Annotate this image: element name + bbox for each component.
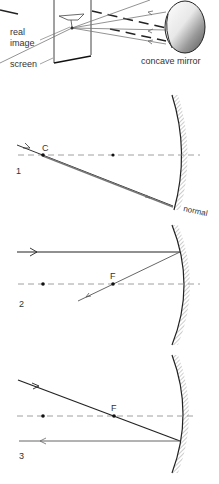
- label-c: C: [42, 143, 49, 153]
- point-c: [41, 414, 45, 418]
- label-image: image: [10, 38, 35, 48]
- label-f: F: [111, 403, 117, 413]
- label-normal: normal: [183, 204, 209, 218]
- point-f: [112, 414, 116, 418]
- label-concave-mirror: concave mirror: [141, 56, 201, 66]
- figure-1: C 1 normal: [16, 95, 209, 218]
- mirror-hatch: [172, 95, 188, 210]
- point-c: [41, 153, 45, 157]
- top-figure: real image screen concave mirror: [0, 0, 205, 69]
- label-screen: screen: [10, 59, 37, 69]
- point-f: [111, 282, 115, 286]
- optics-diagram: real image screen concave mirror C 1 nor…: [0, 0, 219, 484]
- label-real: real: [10, 27, 25, 37]
- figure-number-1: 1: [16, 166, 21, 176]
- figure-number-2: 2: [19, 299, 24, 309]
- figure-number-3: 3: [19, 451, 24, 461]
- label-f: F: [110, 271, 116, 281]
- figure-3: F 3: [17, 355, 195, 473]
- mirror-hatch: [172, 355, 189, 473]
- mirror-hatch: [172, 225, 190, 345]
- point-c: [41, 282, 45, 286]
- figure-2: F 2: [17, 225, 200, 345]
- point-f: [111, 153, 114, 156]
